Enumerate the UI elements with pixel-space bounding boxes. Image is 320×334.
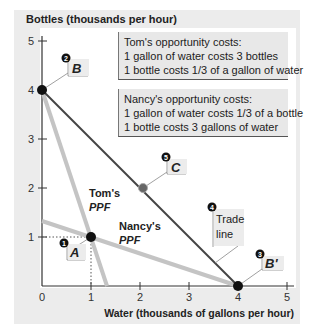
marker-3: 3 xyxy=(258,251,262,258)
label-c: C xyxy=(171,160,181,175)
trade-label-1: Trade xyxy=(216,213,244,225)
nancy-box-line1: 1 gallon of water costs 1/3 of a bottle xyxy=(124,106,283,120)
y-tick-3: 3 xyxy=(28,133,34,145)
x-tick-1: 1 xyxy=(88,291,94,303)
x-tick-2: 2 xyxy=(137,291,143,303)
nancy-ppf-label-1: Nancy's xyxy=(119,220,161,232)
y-tick-1: 1 xyxy=(28,231,34,243)
point-b-prime xyxy=(233,281,243,291)
marker-5: 5 xyxy=(164,154,168,161)
nancy-box-line2: 1 bottle costs 3 gallons of water xyxy=(124,120,283,134)
marker-4: 4 xyxy=(210,204,214,211)
x-axis-title: Water (thousands of gallons per hour) xyxy=(104,307,294,319)
x-tick-5: 5 xyxy=(284,291,290,303)
label-b: B xyxy=(72,61,81,76)
tom-opportunity-costs-box: Tom's opportunity costs: 1 gallon of wat… xyxy=(118,32,288,80)
marker-2: 2 xyxy=(64,55,68,62)
tom-box-title: Tom's opportunity costs: xyxy=(124,35,283,49)
tom-ppf-label-2: PPF xyxy=(89,201,111,213)
point-c xyxy=(139,184,148,193)
trade-label-2: line xyxy=(216,228,233,240)
y-axis-title: Bottles (thousands per hour) xyxy=(26,13,177,25)
tom-box-line2: 1 bottle costs 1/3 of a gallon of water xyxy=(124,63,283,77)
nancy-ppf-label-2: PPF xyxy=(119,234,141,246)
y-tick-4: 4 xyxy=(28,84,34,96)
point-b xyxy=(37,85,47,95)
y-tick-5: 5 xyxy=(28,35,34,47)
nancy-box-title: Nancy's opportunity costs: xyxy=(124,92,283,106)
tom-ppf-label-1: Tom's xyxy=(89,187,120,199)
nancy-opportunity-costs-box: Nancy's opportunity costs: 1 gallon of w… xyxy=(118,89,288,137)
tom-box-line1: 1 gallon of water costs 3 bottles xyxy=(124,49,283,63)
point-a xyxy=(86,232,96,242)
x-tick-3: 3 xyxy=(186,291,192,303)
x-tick-4: 4 xyxy=(235,291,241,303)
marker-1: 1 xyxy=(62,240,66,247)
x-tick-0: 0 xyxy=(39,291,45,303)
label-b-prime: B' xyxy=(265,256,278,271)
label-a: A xyxy=(69,245,79,260)
y-tick-2: 2 xyxy=(28,182,34,194)
